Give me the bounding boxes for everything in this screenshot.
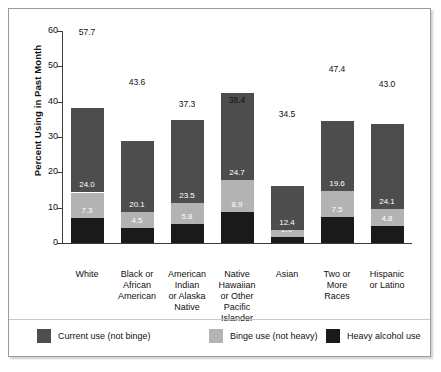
x-tick-label-line: or Other (212, 291, 262, 302)
bar-segment-value: 24.0 (71, 180, 104, 189)
y-tick-label: 10 (48, 202, 58, 212)
x-tick-label-line: White (62, 269, 112, 280)
bar-segment-value: 24.1 (371, 197, 404, 206)
bar-segment-value: 12.4 (271, 218, 304, 227)
x-axis-line (62, 243, 412, 244)
stacked-bar[interactable]: 7.519.647.4 (321, 76, 354, 243)
y-tick-label: 20 (48, 166, 58, 176)
bar-segment[interactable]: 7.5 (321, 191, 354, 218)
bar-total-value: 37.3 (171, 99, 204, 109)
axes: 0102030405060 7.324.057.74.520.143.65.82… (62, 31, 412, 243)
x-tick-label: Asian (262, 269, 312, 280)
x-tick-label: Two orMoreRaces (312, 269, 362, 302)
x-tick-label-line: American (162, 269, 212, 280)
y-tick-label: 50 (48, 60, 58, 70)
bar-segment[interactable] (71, 218, 104, 243)
bar-segment[interactable]: 7.3 (71, 193, 104, 219)
x-tick-label-line: African (112, 280, 162, 291)
bar-segment[interactable] (171, 224, 204, 243)
bar-segment[interactable]: 4.5 (121, 212, 154, 228)
bar-segment[interactable]: 2.0 (271, 230, 304, 237)
y-axis-title: Percent Using in Past Month (32, 31, 43, 191)
legend-swatch (326, 329, 340, 343)
x-tick-label-line: Two or (312, 269, 362, 280)
bar-total-value: 38.4 (221, 95, 254, 105)
bar-segment[interactable]: 23.5 (171, 120, 204, 203)
x-tick-label-line: or Alaska (162, 291, 212, 302)
bar-segment-value: 23.5 (171, 191, 204, 200)
bar-total-value: 43.0 (371, 79, 404, 89)
x-tick-label-line: Hispanic (362, 269, 412, 280)
stacked-bar[interactable]: 4.520.143.6 (121, 89, 154, 243)
stacked-bar[interactable]: 8.924.738.4 (221, 107, 254, 243)
bar-segment[interactable]: 24.1 (371, 124, 404, 209)
bar-segment[interactable] (321, 217, 354, 243)
x-tick-label: Black orAfricanAmerican (112, 269, 162, 302)
legend-item[interactable]: Heavy alcohol use (326, 329, 421, 343)
x-tick-label: AmericanIndianor AlaskaNative (162, 269, 212, 313)
x-tick-label-line: More (312, 280, 362, 291)
legend-swatch (209, 329, 223, 343)
stacked-bar[interactable]: 5.823.537.3 (171, 111, 204, 243)
bar-total-value: 47.4 (321, 64, 354, 74)
x-tick-label: White (62, 269, 112, 280)
x-tick-label-line: Indian (162, 280, 212, 291)
bar-segment-value: 8.9 (221, 200, 254, 209)
bar-segment-value: 7.3 (71, 206, 104, 215)
legend-label: Current use (not binge) (58, 331, 151, 341)
x-tick-label-line: American (112, 291, 162, 302)
bar-segment[interactable]: 8.9 (221, 180, 254, 211)
x-tick-label-line: Races (312, 291, 362, 302)
x-tick-label-line: or Latino (362, 280, 412, 291)
stacked-bar[interactable]: 2.012.434.5 (271, 121, 304, 243)
bar-segment-value: 4.5 (121, 216, 154, 225)
stacked-bar[interactable]: 4.824.143.0 (371, 91, 404, 243)
bar-segment[interactable]: 5.8 (171, 203, 204, 223)
x-tick-label-line: Native (212, 269, 262, 280)
legend-label: Binge use (not heavy) (230, 331, 318, 341)
bar-total-value: 57.7 (71, 27, 104, 37)
legend-swatch (37, 329, 51, 343)
bar-segment-value: 7.5 (321, 205, 354, 214)
bar-segment[interactable]: 24.0 (71, 108, 104, 193)
y-tick-label: 0 (53, 237, 58, 247)
y-tick-label: 40 (48, 96, 58, 106)
bar-segment[interactable]: 4.8 (371, 209, 404, 226)
x-tick-label: NativeHawaiianor OtherPacificIslander (212, 269, 262, 324)
bar-total-value: 43.6 (121, 77, 154, 87)
bar-total-value: 34.5 (271, 109, 304, 119)
chart-figure: Percent Using in Past Month 010203040506… (8, 8, 431, 357)
x-tick-label: Hispanicor Latino (362, 269, 412, 291)
bar-segment-value: 4.8 (371, 214, 404, 223)
chart-legend: Current use (not binge)Binge use (not he… (9, 319, 430, 357)
bar-segment[interactable] (271, 237, 304, 243)
stacked-bar[interactable]: 7.324.057.7 (71, 39, 104, 243)
y-tick-label: 60 (48, 25, 58, 35)
bar-segment-value: 24.7 (221, 168, 254, 177)
bar-segment-value: 19.6 (321, 179, 354, 188)
x-tick-label-line: Asian (262, 269, 312, 280)
legend-item[interactable]: Current use (not binge) (37, 329, 151, 343)
plot-area: Percent Using in Past Month 010203040506… (9, 9, 430, 319)
bar-segment[interactable] (221, 212, 254, 243)
x-tick-label-line: Black or (112, 269, 162, 280)
bar-segment[interactable]: 20.1 (121, 141, 154, 212)
x-tick-label-line: Native (162, 302, 212, 313)
legend-label: Heavy alcohol use (347, 331, 421, 341)
legend-item[interactable]: Binge use (not heavy) (209, 329, 318, 343)
bar-segment[interactable] (121, 228, 154, 243)
bar-segment[interactable]: 12.4 (271, 186, 304, 230)
bar-segment-value: 20.1 (121, 200, 154, 209)
y-tick-label: 30 (48, 131, 58, 141)
bar-segment[interactable] (371, 226, 404, 243)
x-tick-label-line: Hawaiian (212, 280, 262, 291)
bar-segment[interactable]: 24.7 (221, 93, 254, 180)
bar-segment-value: 5.8 (171, 212, 204, 221)
x-tick-label-line: Pacific (212, 302, 262, 313)
bar-segment[interactable]: 19.6 (321, 121, 354, 190)
